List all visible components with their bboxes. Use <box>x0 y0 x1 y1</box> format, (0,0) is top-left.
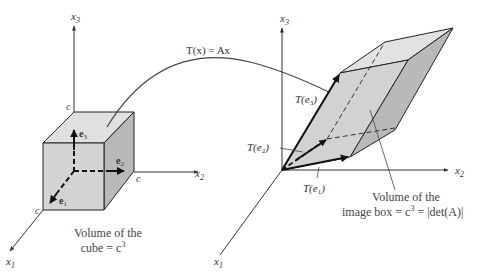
T-e3-label: T(e3) <box>295 93 317 107</box>
transform-arrow: T(x) = Ax <box>107 44 345 127</box>
T-e2-label: T(e2) <box>247 141 269 155</box>
corner-c-x1: c <box>35 205 40 216</box>
box-volume-caption-line2: image box = c3 = |det(A)| <box>342 204 463 219</box>
x2-label-left: x2 <box>194 167 204 182</box>
transform-label: T(x) = Ax <box>186 44 231 57</box>
corner-c-x2: c <box>136 173 141 184</box>
linear-transform-volume-diagram: x3 x2 x1 c c c e3 e2 e1 Volume of the cu… <box>0 0 486 279</box>
x3-label-right: x3 <box>279 12 289 27</box>
T-e1-label: T(e1) <box>303 182 325 196</box>
x1-label-right: x1 <box>213 255 223 270</box>
cube-volume-caption-line1: Volume of the <box>74 226 142 240</box>
x1-axis-left <box>10 210 43 251</box>
cube-figure: x3 x2 x1 c c c e3 e2 e1 Volume of the cu… <box>5 10 204 270</box>
cube-volume-caption-line2: cube = c3 <box>81 240 126 255</box>
x3-label-left: x3 <box>70 10 80 25</box>
corner-c-x3: c <box>66 101 71 112</box>
T-e1-leader <box>317 167 319 178</box>
x1-axis-right <box>220 170 282 255</box>
image-box-figure: x3 x2 x1 T(e3) T(e2) T(e1) Volume of the… <box>213 12 464 270</box>
x1-label-left: x1 <box>5 255 15 270</box>
box-volume-caption-line1: Volume of the <box>372 190 440 204</box>
x2-label-right: x2 <box>454 164 464 179</box>
